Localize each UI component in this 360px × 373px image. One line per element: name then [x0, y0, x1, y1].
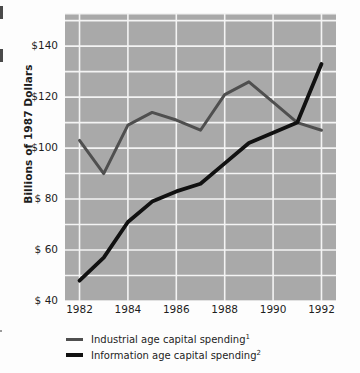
x-axis-tick-1984: 1984 [105, 303, 151, 315]
x-axis-tick-1982: 1982 [57, 303, 103, 315]
x-axis-tick-1990: 1990 [250, 303, 296, 315]
legend-swatch-industrial [66, 338, 83, 341]
y-axis-tick-40: $ 40 [0, 294, 58, 306]
x-axis-tick-1986: 1986 [153, 303, 199, 315]
x-axis-tick-1992: 1992 [299, 303, 345, 315]
y-axis-tick-60: $ 60 [0, 243, 58, 255]
chart-legend: Industrial age capital spending1 Informa… [66, 331, 326, 363]
plot-area [65, 13, 336, 301]
legend-footnote-marker: 1 [246, 333, 250, 341]
legend-footnote-marker: 2 [257, 349, 261, 357]
y-axis-tick-140: $140 [0, 39, 58, 51]
legend-item-information: Information age capital spending2 [66, 347, 326, 363]
chart-page: Billions of 1987 Dollars $140$120$100$ 8… [0, 0, 360, 373]
x-axis-tick-1988: 1988 [202, 303, 248, 315]
legend-label-information: Information age capital spending2 [91, 349, 261, 361]
chart-canvas [65, 13, 336, 301]
x-axis-tick-labels: 198219841986198819901992 [65, 303, 336, 319]
y-axis-tick-120: $120 [0, 90, 58, 102]
scan-artifact-mark [0, 330, 2, 332]
y-axis-tick-100: $100 [0, 141, 58, 153]
legend-label-industrial: Industrial age capital spending1 [91, 333, 250, 345]
legend-item-industrial: Industrial age capital spending1 [66, 331, 326, 347]
legend-swatch-information [66, 353, 83, 357]
y-axis-tick-80: $ 80 [0, 192, 58, 204]
y-axis-tick-labels: $140$120$100$ 80$ 60$ 40 [0, 13, 58, 301]
